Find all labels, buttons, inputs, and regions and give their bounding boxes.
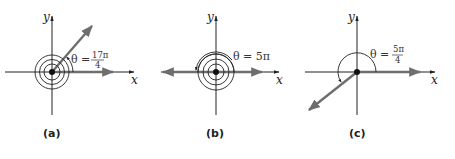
caption-c: (c) xyxy=(349,127,366,140)
panel-a: y x θ = 17π 4 (a) xyxy=(5,10,138,140)
origin-point xyxy=(354,69,360,75)
theta-denominator: 4 xyxy=(95,60,100,70)
x-axis-label: x xyxy=(131,73,138,87)
panel-b: y x θ = 5π (b) xyxy=(161,10,283,140)
origin-point xyxy=(49,69,55,75)
theta-label: θ = xyxy=(71,53,90,66)
caption-b: (b) xyxy=(206,127,224,140)
x-axis-label: x xyxy=(276,73,283,87)
theta-numerator: 17π xyxy=(92,50,109,60)
panel-c: y x θ = 5π 4 (c) xyxy=(305,10,438,140)
y-axis-label: y xyxy=(42,10,50,24)
theta-numerator: 5π xyxy=(393,44,404,54)
theta-label: θ = 5π xyxy=(233,50,270,63)
x-axis-label: x xyxy=(431,73,438,87)
theta-denominator: 4 xyxy=(395,55,400,65)
angle-diagrams: y x θ = 17π 4 (a) y x θ = 5π (b) xyxy=(0,0,455,159)
terminal-side-ray xyxy=(309,72,357,110)
y-axis-label: y xyxy=(206,10,214,24)
caption-a: (a) xyxy=(43,127,60,140)
origin-point xyxy=(213,69,219,75)
theta-label: θ = xyxy=(370,48,389,61)
y-axis-label: y xyxy=(347,10,355,24)
